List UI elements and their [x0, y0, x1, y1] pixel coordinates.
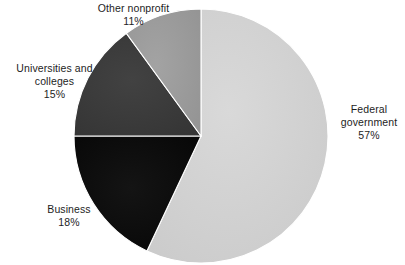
slice-label-other-nonprofit: Other nonprofit 11%: [67, 2, 200, 28]
slice-label-business-percent: 18%: [20, 216, 118, 229]
slice-label-other-nonprofit-name: Other nonprofit: [67, 2, 200, 15]
slice-label-universities-name-line2: colleges: [2, 75, 107, 88]
slice-label-business: Business 18%: [20, 203, 118, 229]
slice-label-universities-name-line1: Universities and: [2, 62, 107, 75]
slice-label-federal-name-line1: Federal: [334, 103, 404, 116]
slice-label-federal-name-line2: government: [334, 116, 404, 129]
slice-label-other-nonprofit-percent: 11%: [67, 15, 200, 28]
pie-chart: Other nonprofit 11% Universities and col…: [0, 0, 405, 265]
slice-label-business-name: Business: [20, 203, 118, 216]
slice-label-universities-percent: 15%: [2, 88, 107, 101]
slice-label-universities-and-colleges: Universities and colleges 15%: [2, 62, 107, 101]
slice-label-federal-percent: 57%: [334, 129, 404, 142]
slice-label-federal-government: Federal government 57%: [334, 103, 404, 142]
